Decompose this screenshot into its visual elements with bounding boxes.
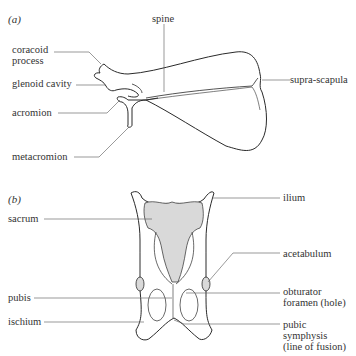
- panel-a-label: (a): [8, 13, 21, 25]
- label-supra-scapula: supra-scapula: [290, 74, 348, 85]
- label-coracoid-line2: process: [12, 55, 44, 66]
- label-coracoid-line1: coracoid: [12, 44, 48, 55]
- label-pubic-line2: symphysis: [283, 330, 327, 341]
- leader-lines-a: [54, 24, 290, 157]
- label-pubic-line3: (line of fusion): [283, 341, 346, 352]
- label-obturator-line1: obturator: [283, 286, 322, 297]
- label-spine: spine: [152, 13, 174, 24]
- label-ischium: ischium: [8, 316, 41, 327]
- label-acromion: acromion: [12, 107, 52, 118]
- panel-b-label: (b): [8, 193, 21, 205]
- pelvis-drawing: [131, 192, 214, 340]
- label-acetabulum: acetabulum: [283, 248, 331, 259]
- label-glenoid-cavity: glenoid cavity: [12, 78, 72, 89]
- label-pubis: pubis: [8, 292, 31, 303]
- label-obturator-line2: foramen (hole): [283, 297, 346, 308]
- label-metacromion: metacromion: [12, 151, 67, 162]
- label-pubic-line1: pubic: [283, 319, 306, 330]
- label-sacrum: sacrum: [8, 213, 38, 224]
- label-ilium: ilium: [283, 192, 305, 203]
